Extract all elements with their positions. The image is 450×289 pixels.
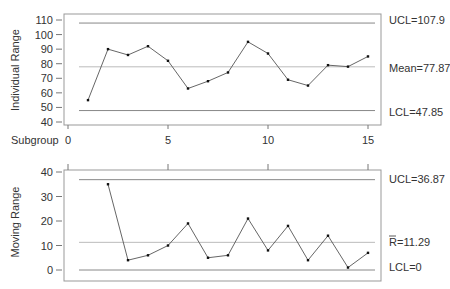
bottom-y-axis-title: Moving Range xyxy=(9,187,21,258)
data-point xyxy=(207,257,209,259)
data-point xyxy=(107,48,109,50)
bottom-rbar-label: R =11.29 xyxy=(389,236,430,248)
series-line xyxy=(88,42,368,100)
data-point xyxy=(287,225,289,227)
data-point xyxy=(327,64,329,66)
data-point xyxy=(207,80,209,82)
bottom-plot-frame xyxy=(64,170,381,281)
data-point xyxy=(267,52,269,54)
y-tick-label: 80 xyxy=(41,58,53,70)
data-point xyxy=(307,84,309,86)
y-tick-label: 100 xyxy=(35,29,53,41)
top-control-lines xyxy=(79,23,375,111)
data-point xyxy=(367,252,369,254)
data-point xyxy=(167,60,169,62)
y-tick-label: 0 xyxy=(47,264,53,276)
data-point xyxy=(147,45,149,47)
top-y-axis: 405060708090100110 xyxy=(35,14,62,128)
data-point xyxy=(267,249,269,251)
bottom-series xyxy=(107,183,369,269)
y-tick-label: 40 xyxy=(41,116,53,128)
bottom-lcl-label: LCL=0 xyxy=(389,261,422,273)
top-plot-frame xyxy=(64,14,381,125)
rbar-symbol: R xyxy=(389,236,397,248)
data-point xyxy=(347,65,349,67)
data-point xyxy=(147,254,149,256)
control-chart: 405060708090100110 Individual Range UCL=… xyxy=(0,0,450,289)
data-point xyxy=(247,41,249,43)
y-tick-label: 10 xyxy=(41,240,53,252)
y-tick-label: 110 xyxy=(35,14,53,26)
data-point xyxy=(127,54,129,56)
moving-range-chart: 010203040 Moving Range UCL=36.87 R =11.2… xyxy=(9,164,445,281)
top-lcl-label: LCL=47.85 xyxy=(389,106,443,118)
subgroup-axis: Subgroup 051015 xyxy=(11,125,374,146)
y-tick-label: 50 xyxy=(41,101,53,113)
data-point xyxy=(307,259,309,261)
y-tick-label: 70 xyxy=(41,72,53,84)
data-point xyxy=(227,71,229,73)
subgroup-axis-title: Subgroup xyxy=(11,134,59,146)
data-point xyxy=(187,222,189,224)
x-tick-label: 5 xyxy=(165,134,171,146)
data-point xyxy=(227,254,229,256)
data-point xyxy=(287,79,289,81)
x-tick-label: 10 xyxy=(262,134,274,146)
y-tick-label: 40 xyxy=(41,166,53,178)
y-tick-label: 60 xyxy=(41,87,53,99)
rbar-value: =11.29 xyxy=(397,236,430,248)
y-tick-label: 20 xyxy=(41,215,53,227)
data-point xyxy=(187,87,189,89)
x-tick-label: 0 xyxy=(65,134,71,146)
data-point xyxy=(247,217,249,219)
bottom-y-axis: 010203040 xyxy=(41,166,62,276)
x-tick-label: 15 xyxy=(362,134,374,146)
bottom-x-ticks xyxy=(68,164,368,170)
data-point xyxy=(167,244,169,246)
data-point xyxy=(107,183,109,185)
top-ucl-label: UCL=107.9 xyxy=(389,14,445,26)
y-tick-label: 30 xyxy=(41,191,53,203)
top-y-axis-title: Individual Range xyxy=(9,29,21,111)
data-point xyxy=(127,259,129,261)
data-point xyxy=(347,266,349,268)
data-point xyxy=(87,99,89,101)
top-series xyxy=(87,41,369,102)
y-tick-label: 90 xyxy=(41,43,53,55)
data-point xyxy=(327,235,329,237)
bottom-ucl-label: UCL=36.87 xyxy=(389,173,445,185)
individuals-chart: 405060708090100110 Individual Range UCL=… xyxy=(9,14,450,128)
top-mean-label: Mean=77.87 xyxy=(389,62,450,74)
data-point xyxy=(367,55,369,57)
